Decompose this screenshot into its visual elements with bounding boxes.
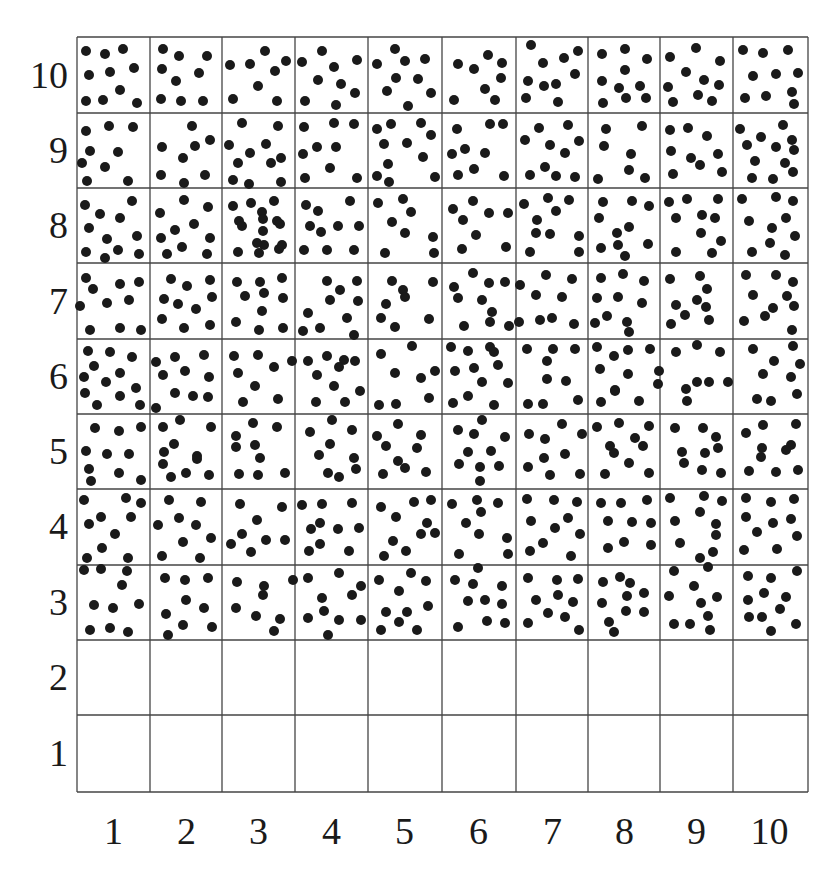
dot-marker	[644, 421, 654, 431]
dot-marker	[501, 242, 511, 252]
dot-marker	[723, 377, 733, 387]
dot-marker	[123, 553, 133, 563]
dot-grid-plot	[0, 0, 837, 884]
dot-marker	[155, 208, 165, 218]
dot-marker	[557, 419, 567, 429]
dot-marker	[561, 376, 571, 386]
dot-marker	[766, 626, 776, 636]
x-tick-label-6: 6	[442, 812, 515, 850]
dot-marker	[671, 300, 681, 310]
dot-marker	[523, 399, 533, 409]
dot-marker	[525, 546, 535, 556]
dot-marker	[420, 54, 430, 64]
dot-marker	[81, 247, 91, 257]
dot-marker	[351, 464, 361, 474]
dot-marker	[566, 551, 576, 561]
dot-marker	[738, 45, 748, 55]
dot-marker	[166, 472, 176, 482]
dot-marker	[303, 356, 313, 366]
dot-marker	[169, 439, 179, 449]
dot-marker	[390, 322, 400, 332]
dot-marker	[792, 566, 802, 576]
dot-marker	[305, 221, 315, 231]
dot-marker	[663, 82, 673, 92]
dot-marker	[531, 290, 541, 300]
dot-marker	[136, 498, 146, 508]
dot-marker	[400, 292, 410, 302]
dot-marker	[269, 362, 279, 372]
dot-marker	[124, 449, 134, 459]
dot-marker	[394, 617, 404, 627]
dot-marker	[595, 364, 605, 374]
dot-marker	[524, 429, 534, 439]
dot-marker	[457, 244, 467, 254]
dot-marker	[81, 273, 91, 283]
dot-marker	[187, 121, 197, 131]
dot-marker	[231, 431, 241, 441]
dot-marker	[598, 98, 608, 108]
dot-marker	[671, 247, 681, 257]
dot-marker	[161, 609, 171, 619]
dot-marker	[205, 233, 215, 243]
dot-marker	[428, 277, 438, 287]
dot-marker	[739, 316, 749, 326]
dot-marker	[480, 148, 490, 158]
dot-marker	[75, 301, 85, 311]
dot-marker	[79, 565, 89, 575]
dot-marker	[449, 282, 459, 292]
dot-marker	[205, 135, 215, 145]
x-tick-label-3: 3	[222, 812, 295, 850]
dot-marker	[489, 400, 499, 410]
dot-marker	[704, 315, 714, 325]
dot-marker	[231, 317, 241, 327]
dot-marker	[703, 562, 713, 572]
dot-marker	[95, 209, 105, 219]
dot-marker	[246, 198, 256, 208]
dot-marker	[494, 461, 504, 471]
dot-marker	[540, 162, 550, 172]
dot-marker	[683, 123, 693, 133]
y-tick-label-6: 6	[8, 357, 68, 395]
dot-marker	[666, 319, 676, 329]
dot-marker	[573, 46, 583, 56]
dot-marker	[737, 194, 747, 204]
dot-marker	[316, 227, 326, 237]
dot-marker	[97, 543, 107, 553]
dot-marker	[521, 93, 531, 103]
dot-marker	[115, 85, 125, 95]
dot-marker	[679, 458, 689, 468]
dot-marker	[713, 194, 723, 204]
x-tick-label-7: 7	[516, 812, 589, 850]
dot-marker	[793, 465, 803, 475]
dot-marker	[374, 400, 384, 410]
dot-marker	[202, 249, 212, 259]
dot-marker	[127, 352, 137, 362]
dot-marker	[697, 465, 707, 475]
dot-marker	[157, 314, 167, 324]
dot-marker	[642, 495, 652, 505]
dot-marker	[623, 369, 633, 379]
dot-marker	[272, 96, 282, 106]
dot-marker	[85, 146, 95, 156]
dot-marker	[323, 630, 333, 640]
dot-marker	[545, 470, 555, 480]
dot-marker	[416, 529, 426, 539]
dot-marker	[102, 298, 112, 308]
y-tick-label-5: 5	[8, 432, 68, 470]
dot-marker	[304, 546, 314, 556]
dot-marker	[771, 467, 781, 477]
dot-marker	[350, 88, 360, 98]
dot-marker	[127, 196, 137, 206]
dot-marker	[759, 588, 769, 598]
dot-marker	[374, 575, 384, 585]
dot-marker	[387, 217, 397, 227]
dot-marker	[329, 62, 339, 72]
dot-marker	[400, 463, 410, 473]
dot-marker	[682, 396, 692, 406]
dot-marker	[124, 295, 134, 305]
dot-marker	[322, 276, 332, 286]
dot-marker	[453, 170, 463, 180]
dot-marker	[174, 513, 184, 523]
dot-marker	[551, 206, 561, 216]
dot-marker	[592, 293, 602, 303]
